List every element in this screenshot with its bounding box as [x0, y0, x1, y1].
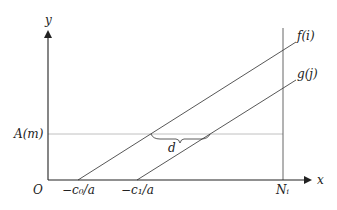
line-g — [137, 80, 296, 180]
distance-brace — [151, 134, 210, 143]
line-f-intercept-label: −c₀/a — [62, 183, 95, 197]
line-g-label: g(j) — [297, 67, 318, 81]
x-axis-label: x — [317, 173, 324, 187]
level-label: A(m) — [13, 127, 44, 141]
diagram-canvas: y x O A(m) f(i) g(j) −c₀/a −c₁/a Nᵢ d — [0, 0, 337, 210]
origin-label: O — [33, 183, 43, 197]
distance-label: d — [168, 141, 176, 155]
line-f — [78, 42, 296, 180]
line-g-intercept-label: −c₁/a — [121, 183, 154, 197]
vertical-bound-label: Nᵢ — [275, 183, 290, 197]
y-axis-label: y — [44, 13, 52, 27]
line-f-label: f(i) — [296, 29, 315, 43]
